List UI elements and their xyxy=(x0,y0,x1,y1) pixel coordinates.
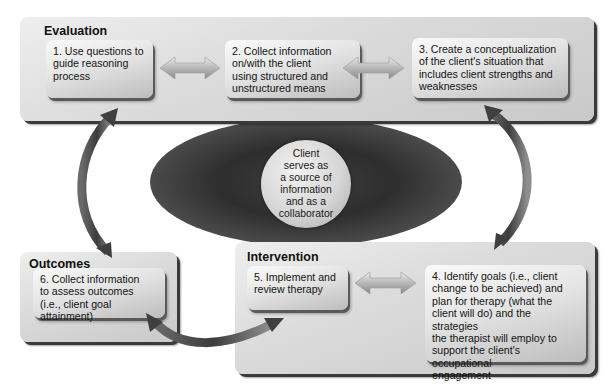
step-4-line-2: change to be achieved) and xyxy=(432,282,579,294)
step-3-line-1: 3. Create a conceptualization xyxy=(419,43,561,55)
intervention-title: Intervention xyxy=(247,250,319,264)
step-3-box: 3. Create a conceptualization of the cli… xyxy=(412,38,568,98)
step-6-box: 6. Collect information to assess outcome… xyxy=(33,268,165,318)
step-4-line-6: support the client's occupational xyxy=(432,344,579,369)
step-6-line-2: to assess outcomes xyxy=(40,285,158,297)
step-4-line-1: 4. Identify goals (i.e., client xyxy=(432,270,579,282)
step-5-line-1: 5. Implement and xyxy=(254,271,341,283)
hub-line-4: information xyxy=(261,184,351,196)
step-3-line-2: of the client's situation that xyxy=(419,55,561,67)
step-3-line-3: includes client strengths and xyxy=(419,68,561,80)
hub-line-3: a source of xyxy=(261,172,351,184)
step-2-line-1: 2. Collect information xyxy=(232,45,353,57)
step-3-line-4: weaknesses xyxy=(419,80,561,92)
step-1-line-1: 1. Use questions to xyxy=(53,45,146,57)
step-2-line-4: unstructured means xyxy=(232,82,353,94)
curved-arrow-6-1-icon xyxy=(82,108,118,258)
step-5-line-2: review therapy xyxy=(254,283,341,295)
hub-line-6: collaborator xyxy=(261,208,351,220)
step-4-line-4: client will do) and the strategies xyxy=(432,307,579,332)
step-1-line-3: process xyxy=(53,70,146,82)
step-2-line-3: using structured and xyxy=(232,70,353,82)
step-5-box: 5. Implement and review therapy xyxy=(247,266,348,310)
step-2-box: 2. Collect information on/with the clien… xyxy=(225,40,360,98)
hub-line-2: serves as xyxy=(261,160,351,172)
step-4-line-3: plan for therapy (what the xyxy=(432,295,579,307)
step-4-box: 4. Identify goals (i.e., client change t… xyxy=(425,265,586,362)
step-1-box: 1. Use questions to guide reasoning proc… xyxy=(46,40,153,98)
curved-arrow-3-4-icon xyxy=(484,105,527,250)
step-4-line-5: the therapist will employ to xyxy=(432,332,579,344)
step-4-line-7: engagement xyxy=(432,369,579,381)
hub-line-5: and as a xyxy=(261,196,351,208)
step-6-line-3: (i.e., client goal attainment) xyxy=(40,298,158,323)
step-1-line-2: guide reasoning xyxy=(53,57,146,69)
client-hub-circle: Client serves as a source of information… xyxy=(261,140,351,228)
step-6-line-1: 6. Collect information xyxy=(40,273,158,285)
step-2-line-2: on/with the client xyxy=(232,57,353,69)
hub-line-1: Client xyxy=(261,148,351,160)
evaluation-title: Evaluation xyxy=(44,24,107,38)
